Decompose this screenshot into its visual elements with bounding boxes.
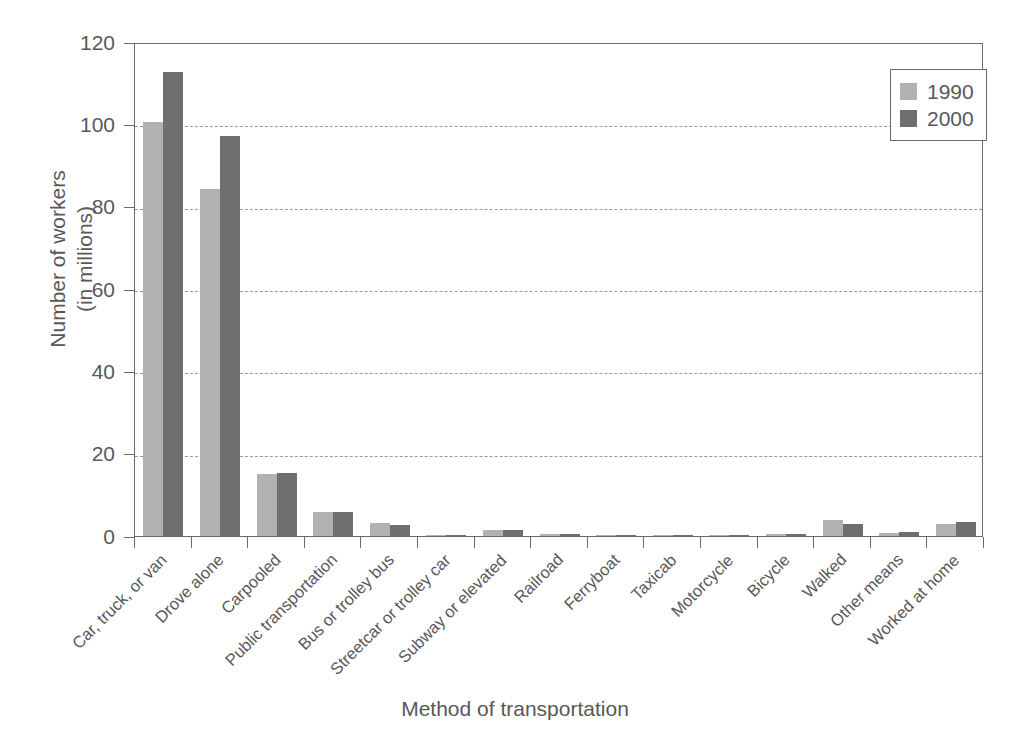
bar-2000-9 <box>673 535 693 536</box>
legend-entry-2000: 2000 <box>900 105 974 132</box>
bar-1990-10 <box>709 535 729 536</box>
bar-2000-3 <box>333 512 353 536</box>
x-axis-tick-labels: Car, truck, or vanDrove aloneCarpooledPu… <box>0 537 1030 687</box>
bar-2000-14 <box>956 522 976 536</box>
bar-1990-3 <box>313 512 333 536</box>
legend-swatch-1990-icon <box>900 83 917 100</box>
bar-2000-10 <box>729 535 749 536</box>
y-axis-tick-mark <box>124 125 134 126</box>
bar-2000-6 <box>503 530 523 536</box>
bar-1990-12 <box>823 520 843 536</box>
bar-1990-5 <box>426 535 446 536</box>
bar-2000-13 <box>899 532 919 536</box>
y-axis-tick-mark <box>124 207 134 208</box>
y-axis-tick-label: 80 <box>92 196 124 217</box>
bar-2000-7 <box>560 534 580 536</box>
bar-1990-13 <box>879 533 899 536</box>
x-axis-label-0: Car, truck, or van <box>69 551 170 652</box>
x-axis-label-11: Bicycle <box>744 551 793 600</box>
y-axis-tick-label: 100 <box>80 114 124 135</box>
bar-1990-4 <box>370 523 390 536</box>
y-axis-tick-mark <box>124 43 134 44</box>
bar-1990-8 <box>596 535 616 536</box>
bar-1990-6 <box>483 530 503 536</box>
bar-1990-0 <box>143 122 163 536</box>
y-axis-tick-label: 60 <box>92 279 124 300</box>
x-axis-label-8: Ferryboat <box>561 551 623 613</box>
bar-2000-0 <box>163 72 183 536</box>
bar-chart-figure: Number of workers (in millions) 02040608… <box>0 0 1030 748</box>
bar-series-container <box>135 44 982 536</box>
legend-label-2000: 2000 <box>927 108 974 129</box>
y-axis-tick-mark <box>124 454 134 455</box>
y-axis-tick-label: 20 <box>92 443 124 464</box>
legend: 1990 2000 <box>890 69 987 141</box>
legend-entry-1990: 1990 <box>900 78 974 105</box>
x-axis-label-9: Taxicab <box>628 551 679 602</box>
bar-1990-14 <box>936 524 956 536</box>
x-axis-title: Method of transportation <box>0 697 1030 721</box>
y-axis-tick-mark <box>124 372 134 373</box>
bar-1990-2 <box>257 474 277 536</box>
bar-2000-11 <box>786 534 806 536</box>
bar-2000-1 <box>220 136 240 536</box>
bar-2000-2 <box>277 473 297 536</box>
x-axis-label-3: Public transportation <box>222 551 340 669</box>
bar-2000-4 <box>390 525 410 536</box>
bar-1990-1 <box>200 189 220 536</box>
y-axis-tick-label: 40 <box>92 361 124 382</box>
y-axis: 020406080100120 <box>0 0 134 537</box>
bar-2000-8 <box>616 535 636 536</box>
bar-2000-5 <box>446 535 466 536</box>
x-axis-label-7: Railroad <box>511 551 566 606</box>
bar-2000-12 <box>843 524 863 536</box>
bar-1990-7 <box>540 534 560 536</box>
y-axis-tick-label: 120 <box>80 32 124 53</box>
legend-swatch-2000-icon <box>900 110 917 127</box>
plot-area <box>134 43 983 537</box>
y-axis-tick-mark <box>124 290 134 291</box>
bar-1990-11 <box>766 534 786 536</box>
x-axis-label-12: Walked <box>799 551 849 601</box>
bar-1990-9 <box>653 535 673 536</box>
legend-label-1990: 1990 <box>927 81 974 102</box>
x-axis-label-6: Subway or elevated <box>395 551 509 665</box>
